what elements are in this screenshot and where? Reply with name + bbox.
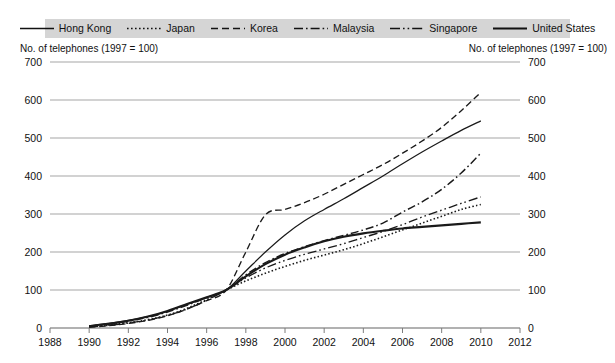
x-tick-label-2012: 2012 <box>508 336 532 348</box>
y-tick-label-left-500: 500 <box>24 132 42 144</box>
x-tick-label-2002: 2002 <box>312 336 336 348</box>
y-tick-label-left-300: 300 <box>24 208 42 220</box>
series-line-singapore <box>89 197 481 327</box>
x-tick-label-1998: 1998 <box>234 336 258 348</box>
series-line-japan <box>89 205 481 327</box>
x-tick-label-2010: 2010 <box>469 336 493 348</box>
y-tick-label-right-400: 400 <box>528 170 546 182</box>
y-tick-label-left-100: 100 <box>24 284 42 296</box>
x-tick-label-1990: 1990 <box>77 336 101 348</box>
x-tick-label-1992: 1992 <box>117 336 141 348</box>
series-line-malaysia <box>89 153 481 326</box>
y-tick-label-left-0: 0 <box>36 322 42 334</box>
series-line-korea <box>89 92 481 327</box>
x-tick-label-1988: 1988 <box>38 336 62 348</box>
y-tick-label-right-600: 600 <box>528 94 546 106</box>
x-tick-label-2004: 2004 <box>352 336 376 348</box>
x-tick-label-2006: 2006 <box>391 336 415 348</box>
y-tick-label-right-200: 200 <box>528 246 546 258</box>
y-tick-label-left-600: 600 <box>24 94 42 106</box>
y-tick-label-left-700: 700 <box>24 56 42 68</box>
y-tick-label-right-500: 500 <box>528 132 546 144</box>
series-line-united-states <box>89 222 481 326</box>
series-line-hong-kong <box>89 121 481 326</box>
x-tick-label-1994: 1994 <box>156 336 180 348</box>
chart-page: Hong KongJapanKoreaMalaysiaSingaporeUnit… <box>0 0 615 363</box>
y-tick-label-right-700: 700 <box>528 56 546 68</box>
x-tick-label-2000: 2000 <box>273 336 297 348</box>
x-tick-label-2008: 2008 <box>430 336 454 348</box>
chart-svg: 0010010020020030030040040050050060060070… <box>0 0 615 363</box>
y-tick-label-right-300: 300 <box>528 208 546 220</box>
x-tick-label-1996: 1996 <box>195 336 219 348</box>
y-tick-label-left-200: 200 <box>24 246 42 258</box>
y-tick-label-right-0: 0 <box>528 322 534 334</box>
y-tick-label-left-400: 400 <box>24 170 42 182</box>
y-tick-label-right-100: 100 <box>528 284 546 296</box>
